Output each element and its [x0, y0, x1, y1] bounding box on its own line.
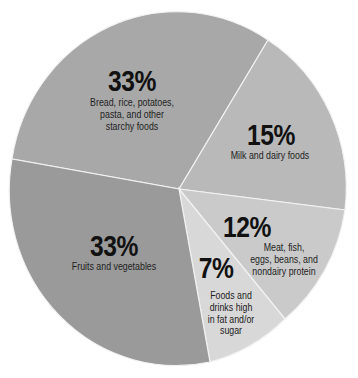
fruits-label-line: Fruits and vegetables: [72, 261, 156, 273]
fat-sugar-label: Foods and drinks high in fat and/or suga…: [208, 290, 255, 337]
meat-percentage: 12%: [223, 212, 271, 242]
milk-label-line: Milk and dairy foods: [231, 150, 309, 162]
fruits-percentage: 33%: [90, 231, 138, 261]
bread-label-line: pasta, and other: [90, 109, 174, 121]
meat-label-line: nondairy protein: [250, 266, 318, 278]
fat-sugar-percentage: 7%: [199, 253, 234, 283]
milk-label: Milk and dairy foods: [231, 150, 309, 162]
milk-percentage: 15%: [247, 120, 295, 150]
bread-label: Bread, rice, potatoes, pasta, and other …: [90, 97, 174, 132]
bread-label-line: starchy foods: [90, 121, 174, 133]
meat-label-line: eggs, beans, and: [250, 254, 318, 266]
fat-sugar-label-line: sugar: [208, 325, 255, 337]
meat-label: Meat, fish, eggs, beans, and nondairy pr…: [250, 242, 318, 277]
fat-sugar-label-line: drinks high: [208, 302, 255, 314]
fruits-label: Fruits and vegetables: [72, 261, 156, 273]
pie-chart: [0, 0, 358, 378]
bread-percentage: 33%: [108, 66, 156, 96]
